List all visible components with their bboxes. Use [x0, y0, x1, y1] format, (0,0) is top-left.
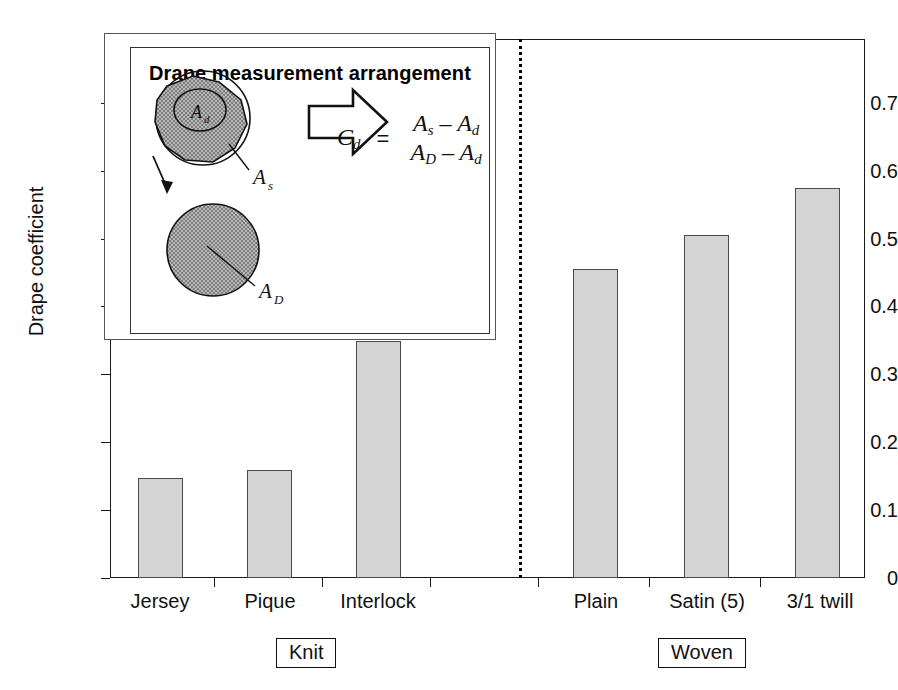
y-tick-mark-0 — [101, 578, 110, 579]
x-label-pique: Pique — [220, 590, 320, 613]
bar-interlock — [356, 341, 401, 578]
formula-numerator: As – Ad — [407, 110, 485, 138]
drape-measurement-diagram: A d A s A D — [131, 48, 491, 335]
x-label-satin-5: Satin (5) — [643, 590, 771, 613]
bar-3-1-twill — [795, 188, 840, 578]
bar-plain — [573, 269, 618, 578]
group-box-woven: Woven — [658, 638, 746, 668]
x-label-plain: Plain — [546, 590, 646, 613]
x-label-interlock: Interlock — [318, 590, 438, 613]
chart-figure: Drape coefficient 0 0.1 0.2 0.3 0.4 0.5 … — [0, 0, 898, 690]
formula-equals: = — [376, 126, 389, 152]
x-tick-mark-5 — [649, 578, 650, 587]
svg-text:s: s — [268, 178, 273, 193]
x-tick-mark-3 — [430, 578, 431, 587]
drape-coefficient-formula: Cd = As – Ad AD – Ad — [337, 110, 489, 167]
svg-text:d: d — [204, 113, 210, 125]
svg-text:A: A — [190, 102, 203, 122]
group-box-knit: Knit — [276, 638, 336, 668]
formula-lhs: Cd — [337, 124, 360, 153]
bar-satin-5 — [684, 235, 729, 578]
y-tick-mark-1 — [101, 510, 110, 511]
svg-text:A: A — [257, 279, 272, 303]
y-tick-mark-3 — [101, 374, 110, 375]
svg-text:A: A — [251, 165, 266, 189]
formula-fraction: As – Ad AD – Ad — [403, 110, 489, 167]
x-tick-mark-1 — [214, 578, 215, 587]
x-label-jersey: Jersey — [110, 590, 210, 613]
x-label-3-1-twill: 3/1 twill — [760, 590, 880, 613]
x-tick-mark-4 — [538, 578, 539, 587]
inset-panel: Drape measurement arrangement A d A s — [130, 47, 490, 334]
x-tick-mark-6 — [760, 578, 761, 587]
bar-jersey — [138, 478, 183, 578]
formula-denominator: AD – Ad — [405, 137, 488, 165]
y-tick-mark-2 — [101, 442, 110, 443]
svg-text:D: D — [273, 292, 284, 307]
group-divider — [519, 39, 522, 578]
y-axis-title: Drape coefficient — [25, 142, 48, 382]
x-tick-mark-2 — [322, 578, 323, 587]
bar-pique — [247, 470, 292, 578]
